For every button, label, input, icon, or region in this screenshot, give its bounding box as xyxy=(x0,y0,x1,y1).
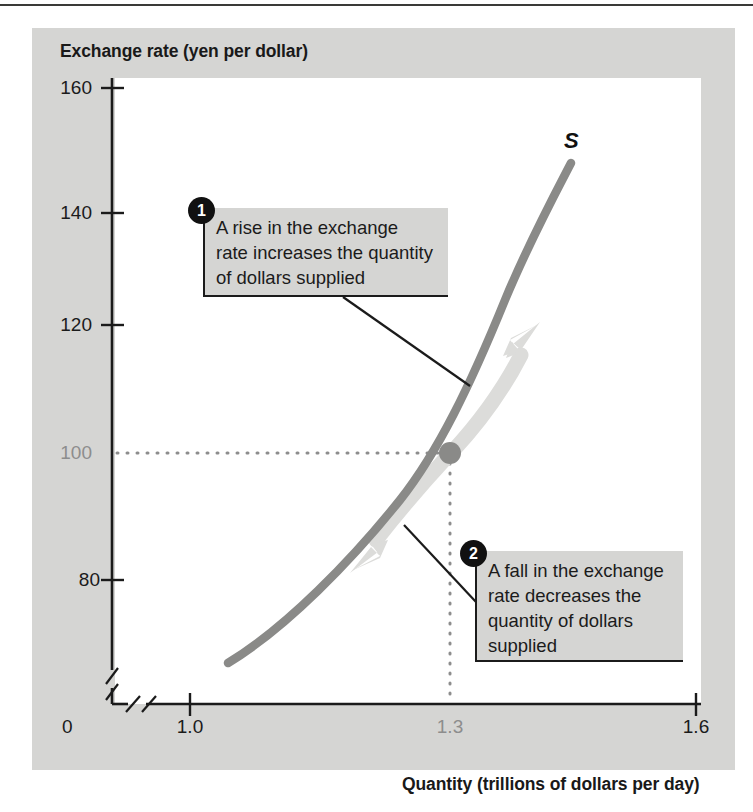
chart-vector-overlay xyxy=(0,0,753,812)
y-axis-break-mark-1 xyxy=(106,668,118,684)
annotation-callout-2: A fall in the exchange rate decreases th… xyxy=(475,551,683,662)
callout-1-leader-line xyxy=(343,297,470,386)
annotation-callout-2-text: A fall in the exchange rate decreases th… xyxy=(477,551,683,664)
annotation-callout-1-text: A rise in the exchange rate increases th… xyxy=(205,208,448,296)
annotation-badge-1: 1 xyxy=(188,197,215,224)
annotation-badge-2: 2 xyxy=(460,540,487,567)
equilibrium-point xyxy=(439,442,461,464)
figure-container: Exchange rate (yen per dollar) Quantity … xyxy=(0,0,753,812)
x-axis-break-mark-1 xyxy=(126,696,140,712)
annotation-callout-1: A rise in the exchange rate increases th… xyxy=(203,208,448,297)
